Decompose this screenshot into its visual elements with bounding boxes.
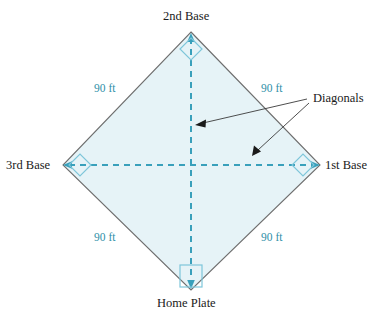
label-2nd-base: 2nd Base bbox=[163, 10, 209, 23]
label-side-bottom-left: 90 ft bbox=[94, 232, 115, 244]
label-3rd-base: 3rd Base bbox=[6, 159, 50, 172]
label-diagonals: Diagonals bbox=[313, 92, 364, 105]
label-side-top-right: 90 ft bbox=[261, 83, 282, 95]
label-home-plate: Home Plate bbox=[157, 297, 216, 310]
label-side-top-left: 90 ft bbox=[94, 83, 115, 95]
label-1st-base: 1st Base bbox=[325, 159, 367, 172]
baseball-diamond-figure bbox=[0, 0, 381, 321]
label-side-bottom-right: 90 ft bbox=[261, 232, 282, 244]
